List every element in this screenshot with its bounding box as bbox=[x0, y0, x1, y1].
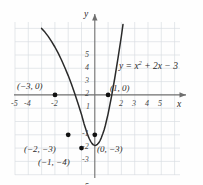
x-tick-neg4: -4 bbox=[24, 100, 31, 108]
y-tick-neg2: -2 bbox=[82, 143, 89, 151]
y-tick-5: 5 bbox=[85, 51, 89, 59]
y-tick-3: 3 bbox=[85, 77, 89, 85]
x-axis bbox=[14, 92, 186, 97]
equation-base: y = x bbox=[119, 61, 139, 71]
point-marker bbox=[66, 132, 71, 137]
y-tick-neg1: -1 bbox=[82, 130, 89, 138]
x-tick-2: 2 bbox=[119, 100, 123, 108]
point-label-neg2-neg3: (−2, −3) bbox=[24, 145, 56, 154]
x-tick-3: 3 bbox=[132, 100, 136, 108]
x-tick-neg5: -5 bbox=[11, 100, 18, 108]
plot-canvas bbox=[0, 0, 203, 185]
x-axis-label: x bbox=[177, 100, 181, 110]
y-tick-neg5: -5 bbox=[82, 183, 89, 185]
equation-annotation: y = x2 + 2x − 3 bbox=[119, 60, 178, 72]
point-marker bbox=[92, 132, 97, 137]
point-label-0-neg3: (0, −3) bbox=[97, 145, 123, 154]
point-marker bbox=[53, 93, 58, 98]
y-tick-4: 4 bbox=[85, 64, 89, 72]
x-tick-neg2: -2 bbox=[51, 100, 58, 108]
y-tick-1: 1 bbox=[86, 103, 90, 111]
graph-figure: 5 4 3 2 1 -1 -2 -3 -5 -5 -4 -2 2 3 4 5 y… bbox=[0, 0, 203, 185]
equation-rest: + 2x − 3 bbox=[142, 61, 178, 71]
point-marker bbox=[106, 93, 111, 98]
point-label-root-1: (1, 0) bbox=[110, 84, 130, 93]
x-tick-5: 5 bbox=[158, 100, 162, 108]
y-tick-2: 2 bbox=[85, 90, 89, 98]
point-label-root-neg3: (−3, 0) bbox=[17, 82, 43, 91]
y-tick-neg3: -3 bbox=[82, 156, 89, 164]
point-label-vertex: (−1, −4) bbox=[38, 158, 70, 167]
x-tick-4: 4 bbox=[145, 100, 149, 108]
y-axis-label: y bbox=[84, 10, 88, 20]
